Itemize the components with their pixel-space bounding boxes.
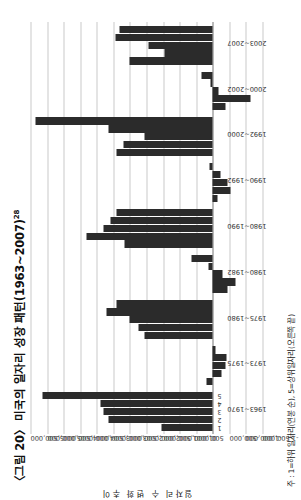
bar — [115, 34, 213, 41]
bar — [144, 133, 212, 140]
bar — [212, 103, 225, 110]
x-axis-category-label: 1975~1980 — [227, 314, 266, 322]
x-axis-category-label: 1963~1970 — [227, 405, 266, 413]
bar — [100, 400, 213, 407]
bar — [212, 171, 219, 178]
y-axis-title-text: 일자리 수 변화 추이 — [100, 489, 191, 500]
y-axis-tick-label: 500,000 — [196, 434, 223, 442]
bar — [108, 125, 212, 132]
chart-plot-area: 5,500,0005,000,0004,500,0004,000,0003,50… — [30, 22, 262, 434]
bar — [206, 378, 212, 385]
bar — [212, 362, 225, 369]
bar — [123, 141, 212, 148]
bar — [119, 26, 212, 33]
bar — [212, 179, 227, 186]
bar — [208, 263, 212, 270]
bar — [116, 300, 212, 307]
bar — [106, 308, 212, 315]
bar — [212, 354, 226, 361]
bar — [212, 346, 215, 353]
bar — [129, 57, 212, 64]
bar — [138, 324, 213, 331]
quintile-number-label: 1 — [215, 426, 223, 430]
quintile-number-label: 3 — [215, 410, 223, 414]
x-axis-category-label: 1990~1992 — [227, 176, 266, 184]
bar — [129, 316, 212, 323]
x-axis-category-label: 1980~1982 — [227, 268, 266, 276]
bar — [86, 233, 212, 240]
y-axis-title: 일자리 수 변화 추이 — [30, 482, 262, 500]
gridline — [47, 22, 48, 434]
bar — [116, 209, 212, 216]
figure-title-footnote-marker: 28 — [12, 210, 20, 219]
quintile-number-label: 5 — [215, 394, 223, 398]
bar — [42, 392, 213, 399]
bar — [212, 187, 229, 194]
bar — [212, 270, 222, 277]
x-axis-category-label: 1980~1990 — [227, 222, 266, 230]
figure-note: 주 : 1=하위 일자리(연봉 순), 5=상위일자리(오른쪽 끝) — [284, 314, 295, 487]
quintile-number-text: 1 — [217, 424, 221, 432]
quintile-number-label: 2 — [215, 418, 223, 422]
bar — [161, 424, 212, 431]
bar — [124, 240, 212, 247]
quintile-number-text: 2 — [217, 416, 221, 424]
bar — [209, 163, 212, 170]
bar — [210, 79, 213, 86]
quintile-number-text: 4 — [217, 400, 221, 408]
bar — [212, 286, 227, 293]
y-axis-tick-label: 0 — [212, 434, 216, 442]
x-axis-category-label: 1973~1975 — [227, 359, 266, 367]
bar — [212, 278, 235, 285]
bar — [103, 225, 212, 232]
x-axis-category-label: 2000~2002 — [227, 85, 266, 93]
figure-page: 〈그림 20〉 미국의 일자리 성장 패턴(1963~2007)28 일자리 수… — [0, 0, 301, 500]
bar — [191, 255, 213, 262]
quintile-number-label: 4 — [215, 402, 223, 406]
bar — [144, 332, 212, 339]
figure-title-text: 〈그림 20〉 미국의 일자리 성장 패턴(1963~2007) — [12, 219, 26, 487]
gridline — [63, 22, 64, 434]
quintile-number-text: 5 — [217, 392, 221, 400]
figure-title: 〈그림 20〉 미국의 일자리 성장 패턴(1963~2007)28 — [10, 210, 26, 487]
bar — [164, 49, 212, 56]
bar — [212, 370, 221, 377]
bar — [108, 416, 212, 423]
bar — [201, 72, 213, 79]
bar — [212, 195, 216, 202]
bar — [212, 95, 250, 102]
gridline — [96, 22, 97, 434]
quintile-number-text: 3 — [217, 408, 221, 416]
bar — [116, 149, 212, 156]
bar — [212, 87, 218, 94]
rotated-figure-canvas: 〈그림 20〉 미국의 일자리 성장 패턴(1963~2007)28 일자리 수… — [0, 0, 301, 500]
bar — [110, 217, 213, 224]
gridline — [80, 22, 81, 434]
gridline — [30, 22, 31, 434]
bar — [148, 42, 213, 49]
x-axis-category-label: 2003~2007 — [227, 39, 266, 47]
bar — [103, 408, 212, 415]
bar — [35, 117, 212, 124]
x-axis-category-label: 1992~2000 — [227, 130, 266, 138]
